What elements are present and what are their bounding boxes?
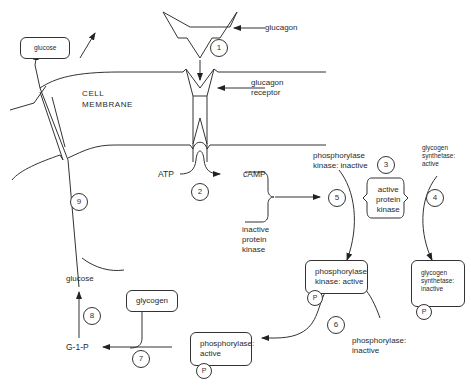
glycogen-synthetase-active-label: glycogen synthetase: active	[422, 144, 455, 168]
phosphorylase-active-box: phosphorylase: active	[190, 332, 252, 366]
step-5-marker: 5	[328, 189, 346, 207]
phosphorylase-kinase-inactive-label: phosphorylase kinase: inactive	[313, 151, 368, 171]
glucagon-receptor	[186, 69, 214, 162]
cell-membrane-lower	[68, 145, 193, 158]
step-8-marker: 8	[83, 307, 101, 325]
phosphate-circle: P	[416, 304, 432, 320]
step-3-marker: 3	[377, 156, 395, 174]
phosphate-circle: P	[196, 363, 212, 379]
glucagon-pathway-diagram: glucose glucagon glucagon receptor CELL …	[0, 0, 471, 388]
step-7-marker: 7	[132, 350, 150, 368]
step-6-marker: 6	[327, 316, 345, 334]
active-protein-kinase-label: active protein kinase	[376, 185, 400, 215]
glucose-top-label: glucose	[34, 44, 56, 52]
phosphorylase-inactive-label: phosphorylase: inactive	[352, 336, 406, 356]
step-2-marker: 2	[191, 183, 209, 201]
glycogen-box: glycogen	[126, 290, 178, 312]
camp-label: cAMP	[243, 169, 266, 180]
phosphorylase-kinase-active-label: phosphorylase kinase: active	[315, 267, 367, 287]
glycogen-label: glycogen	[136, 296, 168, 306]
glycogen-synthetase-inactive-label: glycogen synthetase: inactive	[421, 269, 454, 293]
glucose-box-top: glucose	[20, 37, 70, 59]
phosphorylase-active-label: phosphorylase: active	[200, 339, 254, 359]
glucose-bottom-label: glucose	[66, 274, 94, 284]
g1p-label: G-1-P	[66, 342, 89, 353]
step-9-marker: 9	[70, 193, 88, 211]
cell-membrane-upper	[40, 69, 186, 88]
glucose-transport-channel	[35, 53, 79, 287]
inactive-protein-kinase-label: inactive protein kinase	[242, 225, 269, 255]
glucagon-receptor-label: glucagon receptor	[251, 78, 283, 98]
phosphorylase-kinase-active-box: phosphorylase kinase: active	[305, 260, 368, 294]
atp-label: ATP	[158, 169, 174, 180]
step-4-marker: 4	[426, 189, 444, 207]
cell-membrane-label: CELL MEMBRANE	[82, 88, 133, 110]
glycogen-synthetase-inactive-box: glycogen synthetase: inactive	[411, 260, 465, 307]
glucagon-label: glucagon	[265, 23, 297, 33]
phosphate-circle: P	[307, 290, 323, 306]
step-1-marker: 1	[210, 39, 228, 57]
